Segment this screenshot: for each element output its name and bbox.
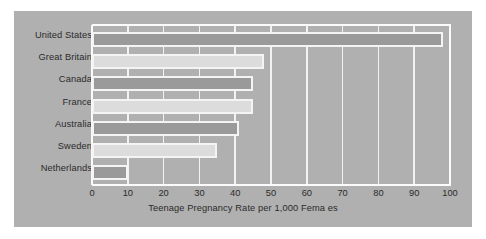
plot-area bbox=[92, 25, 450, 185]
category-label: Australia bbox=[14, 119, 92, 129]
x-tick-label: 80 bbox=[373, 188, 383, 198]
bar bbox=[92, 76, 253, 91]
category-label: United States bbox=[14, 30, 92, 40]
chart-figure: United StatesGreat BritainCanadaFranceAu… bbox=[0, 0, 486, 239]
bar bbox=[92, 165, 128, 180]
x-tick-label: 40 bbox=[230, 188, 240, 198]
plot-baseline bbox=[92, 184, 451, 186]
bar bbox=[92, 99, 253, 114]
x-tick-label: 0 bbox=[89, 188, 94, 198]
x-tick-label: 30 bbox=[194, 188, 204, 198]
x-axis-tick-labels: 0102030405060708090100 bbox=[92, 188, 450, 204]
category-label: Great Britain bbox=[14, 52, 92, 62]
x-axis-title: Teenage Pregnancy Rate per 1,000 Fema es bbox=[14, 203, 472, 213]
category-label: Sweden bbox=[14, 141, 92, 151]
bar-row bbox=[92, 73, 450, 95]
bar-row bbox=[92, 29, 450, 51]
category-label: Netherlands bbox=[14, 163, 92, 173]
bar-row bbox=[92, 140, 450, 162]
x-tick-label: 90 bbox=[409, 188, 419, 198]
x-tick-label: 20 bbox=[158, 188, 168, 198]
bar-row bbox=[92, 162, 450, 184]
bar bbox=[92, 32, 443, 47]
x-tick-label: 50 bbox=[266, 188, 276, 198]
bar bbox=[92, 54, 264, 69]
category-label: France bbox=[14, 97, 92, 107]
x-tick-label: 100 bbox=[442, 188, 458, 198]
bar-row bbox=[92, 51, 450, 73]
category-axis-labels: United StatesGreat BritainCanadaFranceAu… bbox=[14, 25, 92, 185]
bar-row bbox=[92, 118, 450, 140]
x-tick-label: 70 bbox=[337, 188, 347, 198]
bar bbox=[92, 121, 239, 136]
category-label: Canada bbox=[14, 74, 92, 84]
x-tick-label: 60 bbox=[302, 188, 312, 198]
bar-row bbox=[92, 96, 450, 118]
bar bbox=[92, 143, 217, 158]
x-tick-label: 10 bbox=[123, 188, 133, 198]
chart-panel: United StatesGreat BritainCanadaFranceAu… bbox=[14, 11, 472, 227]
